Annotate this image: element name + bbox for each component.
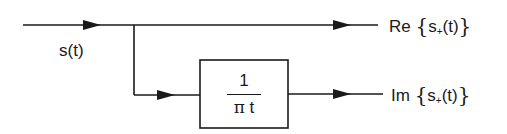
fraction-bar (227, 94, 261, 96)
block-numerator: 1 (239, 72, 248, 89)
im-signal: s (427, 86, 436, 105)
im-close-brace: } (458, 83, 471, 107)
im-open-brace: { (415, 83, 428, 107)
re-output-arrowhead-icon (333, 20, 351, 30)
block-denominator: π t (234, 99, 255, 116)
block-input-arrowhead-icon (157, 90, 175, 100)
input-arrowhead-icon (83, 20, 101, 30)
denominator-var: t (250, 98, 255, 117)
re-close-brace: } (459, 14, 472, 38)
pi-symbol: π (234, 97, 245, 117)
im-prefix: Im (391, 86, 410, 105)
input-label: s(t) (59, 42, 84, 59)
re-open-brace: { (415, 14, 428, 38)
re-output-label: Re {s+(t)} (389, 15, 471, 35)
im-arg: (t) (442, 86, 458, 105)
re-arg: (t) (443, 17, 459, 36)
block-transfer-function: 1 π t (200, 60, 288, 128)
re-subscript: + (437, 26, 443, 37)
im-subscript: + (436, 95, 442, 106)
im-output-arrowhead-icon (333, 89, 351, 99)
im-output-label: Im {s+(t)} (391, 84, 470, 104)
re-signal: s (428, 17, 437, 36)
re-prefix: Re (389, 17, 411, 36)
